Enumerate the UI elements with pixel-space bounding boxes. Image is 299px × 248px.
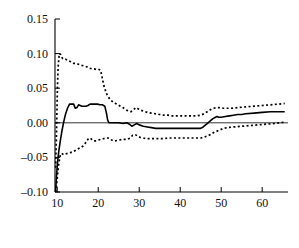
series-line-2 xyxy=(56,122,285,192)
chart-legend: Total education recursive coeff. ±2 S.E. xyxy=(0,220,299,242)
chart-figure: 0.150.100.050.00–0.05–0.10 102030405060 … xyxy=(0,0,299,248)
x-tick-label: 60 xyxy=(250,197,274,209)
y-tick-label: 0.05 xyxy=(4,82,48,94)
y-tick-label: 0.15 xyxy=(4,13,48,25)
x-tick-label: 30 xyxy=(127,197,151,209)
x-tick-label: 50 xyxy=(209,197,233,209)
y-tick-label: –0.05 xyxy=(4,151,48,163)
series-line-0 xyxy=(56,104,285,192)
y-tick-label: –0.10 xyxy=(4,186,48,198)
x-tick-label: 10 xyxy=(45,197,69,209)
series-line-1 xyxy=(56,54,285,168)
y-tick-label: 0.10 xyxy=(4,48,48,60)
x-tick-label: 20 xyxy=(86,197,110,209)
y-tick-label: 0.00 xyxy=(4,117,48,129)
x-tick-label: 40 xyxy=(168,197,192,209)
